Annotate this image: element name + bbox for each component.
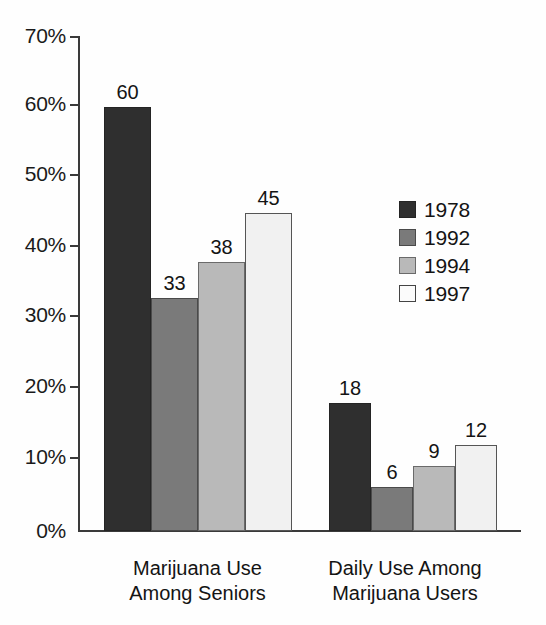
y-tick-mark bbox=[70, 36, 78, 38]
legend: 1978 1992 1994 1997 bbox=[399, 196, 470, 308]
legend-label: 1992 bbox=[424, 227, 470, 248]
legend-label: 1997 bbox=[424, 283, 470, 304]
x-category-label-2: Daily Use Among Marijuana Users bbox=[280, 556, 530, 606]
bar-value-label: 18 bbox=[329, 378, 371, 398]
y-tick-label: 20% bbox=[4, 375, 66, 396]
bar-value-label: 6 bbox=[371, 462, 413, 482]
bar-value-label: 38 bbox=[198, 237, 245, 257]
y-tick-mark bbox=[70, 457, 78, 459]
y-tick-label: 30% bbox=[4, 304, 66, 325]
legend-swatch-icon bbox=[399, 285, 416, 302]
legend-swatch-icon bbox=[399, 257, 416, 274]
bar-value-label: 9 bbox=[413, 441, 455, 461]
y-tick-label: 40% bbox=[4, 234, 66, 255]
bar-1992-daily[interactable] bbox=[371, 487, 413, 531]
bar-1992-seniors[interactable] bbox=[151, 298, 198, 531]
bar-1997-daily[interactable] bbox=[455, 445, 497, 531]
bar-1997-seniors[interactable] bbox=[245, 213, 292, 531]
y-tick-mark bbox=[70, 386, 78, 388]
bar-1994-daily[interactable] bbox=[413, 466, 455, 531]
bar-chart: 70% 60% 50% 40% 30% 20% 10% 0% bbox=[0, 0, 546, 625]
y-tick-mark bbox=[70, 315, 78, 317]
y-tick-label: 50% bbox=[4, 163, 66, 184]
y-tick-mark bbox=[70, 245, 78, 247]
y-tick-label: 0% bbox=[4, 520, 66, 541]
legend-label: 1994 bbox=[424, 255, 470, 276]
legend-swatch-icon bbox=[399, 201, 416, 218]
legend-item-1997[interactable]: 1997 bbox=[399, 280, 470, 306]
bar-value-label: 45 bbox=[245, 188, 292, 208]
y-tick-mark bbox=[70, 104, 78, 106]
y-tick-label: 60% bbox=[4, 93, 66, 114]
x-category-label-2-line2: Marijuana Users bbox=[280, 581, 530, 606]
y-tick-label: 70% bbox=[4, 25, 66, 46]
bar-value-label: 60 bbox=[104, 82, 151, 102]
bar-1994-seniors[interactable] bbox=[198, 262, 245, 531]
legend-item-1992[interactable]: 1992 bbox=[399, 224, 470, 250]
bar-1978-seniors[interactable] bbox=[104, 107, 151, 531]
y-tick-mark bbox=[70, 174, 78, 176]
legend-swatch-icon bbox=[399, 229, 416, 246]
y-tick-label: 10% bbox=[4, 446, 66, 467]
legend-item-1978[interactable]: 1978 bbox=[399, 196, 470, 222]
bar-value-label: 33 bbox=[151, 273, 198, 293]
legend-item-1994[interactable]: 1994 bbox=[399, 252, 470, 278]
bar-value-label: 12 bbox=[455, 420, 497, 440]
x-category-label-2-line1: Daily Use Among bbox=[280, 556, 530, 581]
bar-1978-daily[interactable] bbox=[329, 403, 371, 531]
legend-label: 1978 bbox=[424, 199, 470, 220]
